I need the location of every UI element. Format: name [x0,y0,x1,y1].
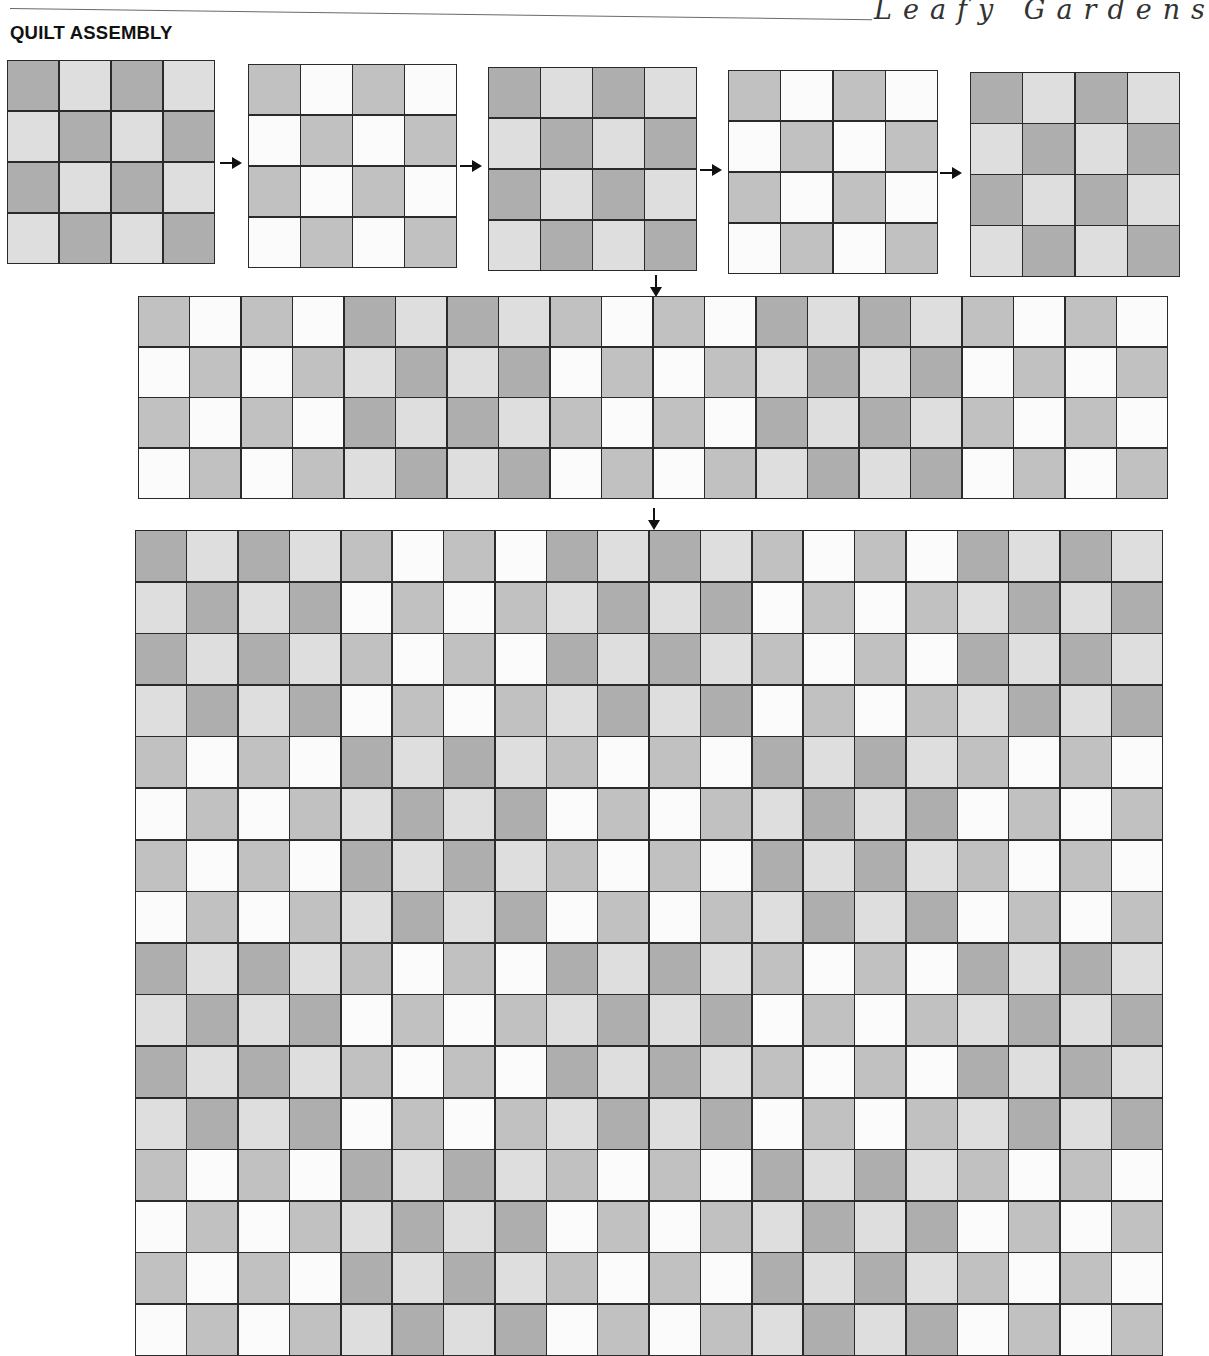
patch-L [444,1202,494,1252]
patch-W [1066,348,1116,397]
patch-D [290,583,340,633]
patch-L [290,531,340,581]
patch-M [187,1305,237,1355]
patch-L [8,112,58,161]
patch-W [650,789,700,839]
patch-W [187,1150,237,1200]
patch-L [1076,124,1127,174]
patch-D [1009,583,1059,633]
patch-L [239,995,289,1045]
patch-L [855,892,905,942]
patch-W [239,892,289,942]
patch-D [1009,686,1059,736]
patch-L [907,1253,957,1303]
patch-D [593,170,644,219]
patch-M [136,1150,186,1200]
patch-D [290,686,340,736]
patch-L [499,297,549,346]
patch-L [290,944,340,994]
patch-W [496,634,546,684]
patch-W [136,789,186,839]
patch-L [136,583,186,633]
patch-D [448,297,498,346]
patch-L [804,737,854,787]
patch-D [971,73,1022,123]
patch-L [1076,226,1127,276]
patch-D [645,119,696,168]
patch-W [551,348,601,397]
patch-M [190,348,240,397]
patch-M [598,1305,648,1355]
patch-M [855,944,905,994]
patch-W [781,71,832,120]
patch-W [136,1305,186,1355]
patch-W [907,634,957,684]
patch-M [239,737,289,787]
patch-L [547,686,597,736]
quilt-block-4 [728,70,938,274]
patch-M [1014,449,1064,498]
patch-L [855,1305,905,1355]
patch-D [164,214,214,263]
patch-L [1023,73,1074,123]
patch-W [958,789,1008,839]
patch-L [701,1047,751,1097]
patch-M [855,1047,905,1097]
patch-D [1061,634,1111,684]
patch-D [753,1150,803,1200]
patch-W [496,944,546,994]
patch-M [598,892,648,942]
patch-D [855,1150,905,1200]
patch-W [301,65,352,114]
patch-W [393,1047,443,1097]
patch-D [650,634,700,684]
patch-D [971,175,1022,225]
patch-M [804,1099,854,1149]
patch-M [1112,789,1162,839]
patch-L [496,1253,546,1303]
patch-W [1117,398,1167,447]
patch-M [753,531,803,581]
patch-L [971,124,1022,174]
patch-L [164,61,214,110]
patch-M [249,167,300,216]
patch-M [405,116,456,165]
patch-M [958,1253,1008,1303]
patch-L [136,686,186,736]
patch-D [1128,124,1179,174]
patch-L [808,398,858,447]
patch-D [239,1047,289,1097]
patch-D [136,944,186,994]
patch-L [804,1150,854,1200]
header-rule [10,8,872,20]
patch-D [187,995,237,1045]
arrow-right-icon [460,160,482,172]
patch-M [886,224,937,273]
patch-D [860,398,910,447]
patch-W [1066,449,1116,498]
patch-D [60,214,110,263]
patch-M [1061,841,1111,891]
patch-W [393,944,443,994]
patch-L [804,1253,854,1303]
patch-D [112,61,162,110]
patch-W [239,789,289,839]
patch-W [496,531,546,581]
patch-M [547,737,597,787]
patch-D [1112,995,1162,1045]
patch-L [1112,1047,1162,1097]
patch-D [136,634,186,684]
patch-W [393,634,443,684]
patch-L [650,583,700,633]
patch-L [342,1305,392,1355]
patch-M [781,224,832,273]
patch-L [112,214,162,263]
patch-M [855,531,905,581]
patch-D [808,348,858,397]
section-title: QUILT ASSEMBLY [10,22,172,44]
patch-W [290,1150,340,1200]
patch-W [781,173,832,222]
patch-D [290,995,340,1045]
patch-M [1009,1305,1059,1355]
patch-W [958,892,1008,942]
